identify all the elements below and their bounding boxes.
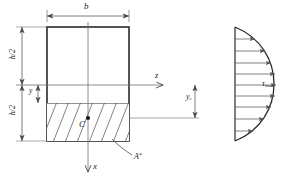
height-dimension-upper bbox=[16, 27, 47, 85]
y-distance-label: y bbox=[29, 87, 32, 95]
centroid-label: C bbox=[79, 120, 85, 129]
upper-half-height-label: h/2 bbox=[9, 43, 17, 65]
z-axis-label: z bbox=[155, 72, 158, 80]
partial-area-hatch bbox=[40, 99, 142, 145]
lower-half-height-label: h/2 bbox=[9, 99, 17, 121]
centroid-marker bbox=[86, 116, 90, 120]
figure-linework bbox=[0, 0, 300, 182]
yc-distance-label: yc bbox=[186, 93, 192, 102]
width-label: b bbox=[84, 2, 89, 11]
x-axis-label: x bbox=[93, 162, 97, 171]
shear-stress-figure: b h/2 h/2 y z yc x C A* τmax bbox=[0, 0, 300, 182]
max-shear-stress-label: τmax bbox=[262, 80, 273, 89]
partial-area-label: A* bbox=[134, 152, 142, 161]
width-dimension bbox=[47, 10, 129, 22]
